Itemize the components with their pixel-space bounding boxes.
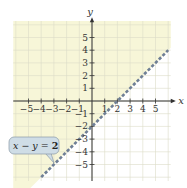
inequality-chart: −5−4−3−2−11234554321−1−2−3−4−5xy x − y =… bbox=[0, 0, 187, 188]
x-tick-label: 3 bbox=[127, 104, 133, 114]
x-tick-label: −3 bbox=[45, 104, 59, 114]
x-tick-label: 5 bbox=[153, 104, 159, 114]
y-axis-arrow-icon bbox=[90, 17, 94, 22]
callout-rhs: 2 bbox=[52, 140, 59, 151]
y-tick-label: 5 bbox=[82, 33, 88, 43]
y-tick-label: −5 bbox=[75, 160, 89, 170]
y-tick-label: −1 bbox=[75, 109, 88, 119]
x-tick-label: −5 bbox=[20, 104, 34, 114]
x-tick-label: 1 bbox=[102, 104, 108, 114]
y-tick-label: 3 bbox=[82, 58, 88, 68]
callout-equation: x − y = 2 bbox=[13, 140, 58, 151]
y-tick-label: 4 bbox=[82, 45, 88, 55]
y-axis-label: y bbox=[86, 6, 93, 17]
y-tick-label: −3 bbox=[75, 134, 89, 144]
x-tick-label: 4 bbox=[140, 104, 146, 114]
y-tick-label: −2 bbox=[75, 121, 88, 131]
x-axis-arrow-icon bbox=[171, 99, 176, 103]
x-axis-label: x bbox=[178, 95, 184, 106]
x-tick-label: −4 bbox=[33, 104, 47, 114]
x-tick-label: 2 bbox=[115, 104, 121, 114]
y-tick-label: 1 bbox=[82, 83, 88, 93]
y-tick-label: −4 bbox=[75, 147, 89, 157]
callout-lhs: x − y = bbox=[13, 140, 52, 151]
y-tick-label: 2 bbox=[82, 71, 88, 81]
x-tick-label: −2 bbox=[58, 104, 71, 114]
